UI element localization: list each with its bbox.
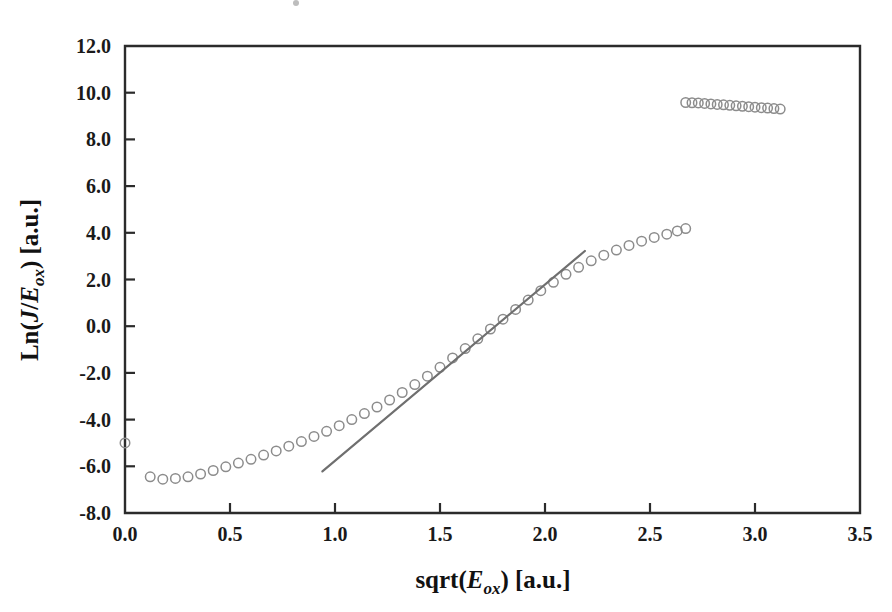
y-tick-label: 12.0 [76,35,111,57]
chart-figure: 0.00.51.01.52.02.53.03.5 12.010.08.06.04… [0,0,892,612]
y-tick-label: -6.0 [79,455,111,477]
x-tick-label: 2.5 [638,523,663,545]
x-tick-label: 3.0 [743,523,768,545]
y-tick-label: 6.0 [86,175,111,197]
x-tick-label: 1.5 [428,523,453,545]
y-tick-label: 10.0 [76,82,111,104]
x-tick-label: 1.0 [323,523,348,545]
y-tick-label: -8.0 [79,502,111,524]
y-tick-label: 0.0 [86,315,111,337]
x-tick-label: 2.0 [533,523,558,545]
x-tick-label: 0.0 [113,523,138,545]
x-tick-label: 0.5 [218,523,243,545]
y-tick-label: -2.0 [79,362,111,384]
y-tick-label: 8.0 [86,128,111,150]
y-tick-label: -4.0 [79,409,111,431]
scan-artifact-speck [293,0,299,6]
y-tick-label: 2.0 [86,269,111,291]
x-tick-label: 3.5 [848,523,873,545]
y-tick-label: 4.0 [86,222,111,244]
